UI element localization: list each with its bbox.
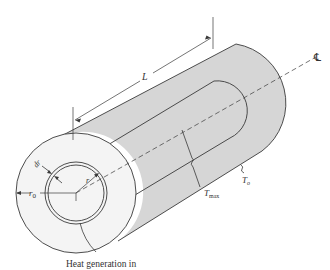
max-temp-label: Tmax [204,188,219,199]
surface-temp-label: To [242,175,250,186]
cylinder-diagram: L ℄ r0 r dr Tmax To Heat generation in [0,0,330,270]
centerline-label: ℄ [313,51,321,63]
length-label: L [141,71,148,82]
caption: Heat generation in [66,259,136,269]
to-leader [241,165,244,173]
